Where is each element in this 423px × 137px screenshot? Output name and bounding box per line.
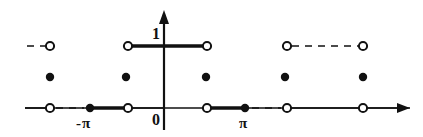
open-circle-axis-5 [359, 104, 367, 112]
plot-segments [25, 46, 410, 108]
filled-dot-axis-neg-pi [86, 104, 94, 112]
plot-markers [46, 42, 367, 112]
open-circle-level1-center-right [203, 42, 211, 50]
figure-canvas: 1 0 -π π [0, 0, 423, 137]
open-circle-level1-center-left [124, 42, 132, 50]
open-circle-level1-right-start [283, 42, 291, 50]
open-circle-axis-2 [124, 104, 132, 112]
y-value-label-one: 1 [152, 26, 160, 42]
open-circle-level1-right-end [359, 42, 367, 50]
square-wave-plot [0, 0, 423, 137]
open-circle-level1-left-end [46, 42, 54, 50]
filled-dot-mid-4 [281, 73, 289, 81]
x-tick-label-negative-pi: -π [76, 116, 91, 131]
x-tick-label-pi: π [239, 116, 247, 131]
filled-dot-mid-5 [359, 73, 367, 81]
open-circle-axis-1 [46, 104, 54, 112]
filled-dot-mid-2 [122, 73, 130, 81]
filled-dot-mid-1 [46, 73, 54, 81]
y-axis-arrow-icon [159, 10, 169, 24]
filled-dot-axis-pi [241, 104, 249, 112]
filled-dot-mid-3 [202, 73, 210, 81]
open-circle-axis-3 [203, 104, 211, 112]
plot-axes [25, 10, 410, 130]
open-circle-axis-4 [283, 104, 291, 112]
x-axis-arrow-icon [397, 103, 410, 113]
origin-label-zero: 0 [152, 112, 160, 128]
